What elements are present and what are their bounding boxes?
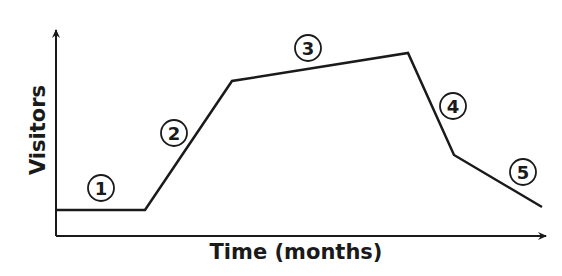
svg-text:4: 4	[447, 96, 460, 117]
svg-text:5: 5	[517, 162, 530, 183]
segment-marker-1: 1	[88, 175, 114, 201]
chart-canvas: 1 2 3 4 5	[0, 0, 562, 276]
y-axis-label: Visitors	[26, 85, 50, 175]
svg-text:3: 3	[302, 38, 315, 59]
x-axis-label: Time (months)	[0, 240, 562, 264]
svg-text:2: 2	[168, 123, 181, 144]
segment-marker-2: 2	[161, 120, 187, 146]
segment-marker-4: 4	[440, 93, 466, 119]
visitors-line	[57, 53, 542, 210]
segment-marker-3: 3	[295, 35, 321, 61]
segment-marker-5: 5	[510, 159, 536, 185]
svg-text:1: 1	[95, 178, 108, 199]
